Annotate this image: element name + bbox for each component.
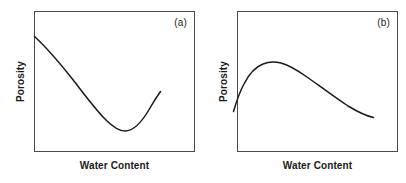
panel-a: Porosity (a) Water Content xyxy=(0,0,203,183)
panel-b-y-axis-label: Porosity xyxy=(212,11,234,152)
panel-b-x-axis-label: Water Content xyxy=(237,160,398,171)
panel-b-y-axis-label-text: Porosity xyxy=(218,61,229,102)
panel-b: Porosity (b) Water Content xyxy=(203,0,406,183)
panel-b-tag: (b) xyxy=(377,17,390,29)
panel-a-tag: (a) xyxy=(174,17,187,29)
panel-b-plot-frame: (b) xyxy=(237,11,398,152)
panel-a-y-axis-label-text: Porosity xyxy=(15,61,26,102)
panel-a-x-axis-label: Water Content xyxy=(34,160,195,171)
panel-a-plot-frame: (a) xyxy=(34,11,195,152)
panel-a-y-axis-label: Porosity xyxy=(9,11,31,152)
figure-container: Porosity (a) Water Content Porosity (b) … xyxy=(0,0,406,183)
